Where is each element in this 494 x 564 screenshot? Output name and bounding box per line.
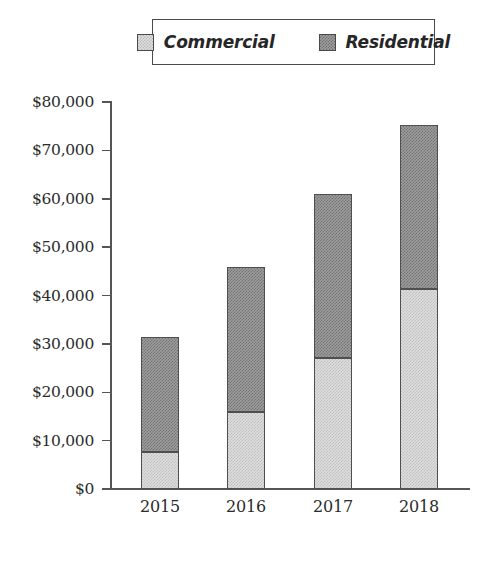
x-axis-label-2016: 2016 [206,497,286,516]
y-tick-0 [102,488,111,490]
y-axis-label: $70,000 [8,141,94,159]
y-axis-label: $50,000 [8,238,94,256]
bar-segment-residential-2015[interactable] [141,337,179,452]
bar-2018[interactable] [400,125,438,489]
bar-segment-commercial-2016[interactable] [227,412,265,489]
bar-segment-commercial-2017[interactable] [314,358,352,489]
y-tick-50000 [102,246,111,248]
y-axis-label: $0 [8,480,94,498]
x-axis-label-2015: 2015 [120,497,200,516]
y-tick-80000 [102,101,111,103]
y-axis-label: $80,000 [8,93,94,111]
x-axis-label-2018: 2018 [379,497,459,516]
y-axis-label: $40,000 [8,287,94,305]
bar-segment-residential-2018[interactable] [400,125,438,289]
y-tick-60000 [102,198,111,200]
stacked-bar-chart: Commercial Residential $0$10,000$20,000$… [0,0,494,564]
y-tick-10000 [102,440,111,442]
y-axis-label: $20,000 [8,383,94,401]
bar-segment-residential-2016[interactable] [227,267,265,412]
bar-segment-residential-2017[interactable] [314,194,352,358]
bar-segment-commercial-2018[interactable] [400,289,438,489]
y-axis-label: $10,000 [8,432,94,450]
y-tick-40000 [102,295,111,297]
y-tick-30000 [102,343,111,345]
bar-2017[interactable] [314,194,352,489]
y-axis-label: $30,000 [8,335,94,353]
y-axis-label: $60,000 [8,190,94,208]
bar-segment-commercial-2015[interactable] [141,452,179,489]
bar-2015[interactable] [141,337,179,489]
y-tick-70000 [102,150,111,152]
y-tick-20000 [102,392,111,394]
bar-2016[interactable] [227,267,265,489]
plot-area: $0$10,000$20,000$30,000$40,000$50,000$60… [0,0,494,564]
x-axis-label-2017: 2017 [293,497,373,516]
